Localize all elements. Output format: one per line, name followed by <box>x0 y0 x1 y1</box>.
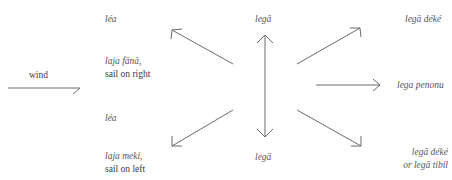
arrow-vertical-icon <box>257 35 273 137</box>
center-top-lega-label: legā <box>255 13 271 26</box>
arrow-southeast-icon <box>297 110 361 146</box>
wind-arrow-icon <box>8 88 80 94</box>
center-bottom-lega-label: legā <box>255 151 271 164</box>
laja-meki-label: laja meki, <box>105 150 142 163</box>
sail-on-right-label: sail on right <box>105 68 150 81</box>
arrow-northeast-icon <box>297 28 361 64</box>
upper-lea-label: léa <box>105 13 117 26</box>
sailing-diagram: wind léa laja fānā, sail on right léa la… <box>0 0 452 180</box>
arrow-east-icon <box>316 79 380 91</box>
arrow-northwest-icon <box>171 29 233 64</box>
arrow-southwest-icon <box>172 110 233 146</box>
laja-fana-label: laja fānā, <box>105 55 141 68</box>
sail-on-left-label: sail on left <box>105 163 145 176</box>
right-bottom-lega-deke-label: legā déké <box>412 146 448 159</box>
wind-label: wind <box>29 69 48 82</box>
or-lega-tibil-label: or legā tibil <box>403 159 448 172</box>
lower-lea-label: léa <box>105 112 117 125</box>
lega-penonu-label: lega penonu <box>397 79 444 92</box>
arrows-layer <box>0 0 452 180</box>
right-top-lega-deke-label: legā déké <box>405 13 441 26</box>
